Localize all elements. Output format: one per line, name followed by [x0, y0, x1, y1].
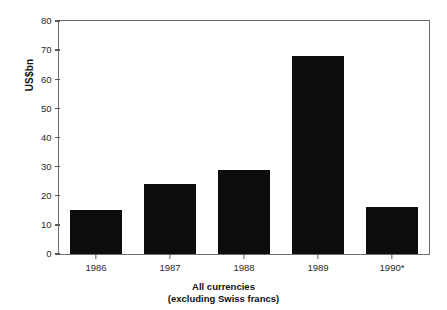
caption-line-1: All currencies — [0, 281, 447, 293]
y-axis-tick-label: 20 — [41, 191, 55, 201]
bar — [218, 170, 270, 254]
bar-slot — [144, 21, 196, 254]
y-axis-tick: 70 — [41, 44, 59, 56]
y-axis-tick-label: 0 — [46, 249, 54, 259]
y-axis-tick-label: 10 — [41, 220, 55, 230]
chart-caption: All currencies (excluding Swiss francs) — [0, 281, 447, 304]
y-axis-tick-label: 30 — [41, 162, 55, 172]
plot-area: 80706050403020100 19861987198819891990* — [58, 20, 430, 255]
bar — [70, 210, 122, 254]
bar-series — [59, 21, 429, 254]
bar-chart-figure: US$bn 80706050403020100 1986198719881989… — [0, 0, 447, 310]
x-axis-tick-label: 1990* — [380, 262, 405, 273]
y-axis-tick: 40 — [41, 132, 59, 144]
y-axis-tick-label: 70 — [41, 45, 55, 55]
y-axis-tick: 80 — [41, 15, 59, 27]
bar-slot — [70, 21, 122, 254]
x-axis-tick-label: 1987 — [159, 262, 180, 273]
y-axis-tick-label: 80 — [41, 16, 55, 26]
x-axis-tick-mark — [95, 254, 96, 259]
bar-slot — [292, 21, 344, 254]
x-axis-tick-label: 1988 — [233, 262, 254, 273]
y-axis-tick: 0 — [46, 248, 59, 260]
x-axis-tick-label: 1986 — [85, 262, 106, 273]
x-axis-tick-mark — [391, 254, 392, 259]
bar-slot — [366, 21, 418, 254]
y-axis-tick: 60 — [41, 73, 59, 85]
y-axis-tick: 20 — [41, 190, 59, 202]
bar — [292, 56, 344, 254]
y-axis-tick: 10 — [41, 219, 59, 231]
bar — [144, 184, 196, 254]
bar — [366, 207, 418, 254]
caption-line-2: (excluding Swiss francs) — [0, 293, 447, 305]
x-axis-tick-mark — [243, 254, 244, 259]
y-axis-tick-label: 50 — [41, 104, 55, 114]
y-axis-tick: 30 — [41, 161, 59, 173]
x-axis-tick-mark — [317, 254, 318, 259]
y-axis-tick-label: 40 — [41, 133, 55, 143]
x-axis-tick-label: 1989 — [307, 262, 328, 273]
y-axis-tick-label: 60 — [41, 75, 55, 85]
x-axis-tick-mark — [169, 254, 170, 259]
bar-slot — [218, 21, 270, 254]
y-axis-tick: 50 — [41, 102, 59, 114]
